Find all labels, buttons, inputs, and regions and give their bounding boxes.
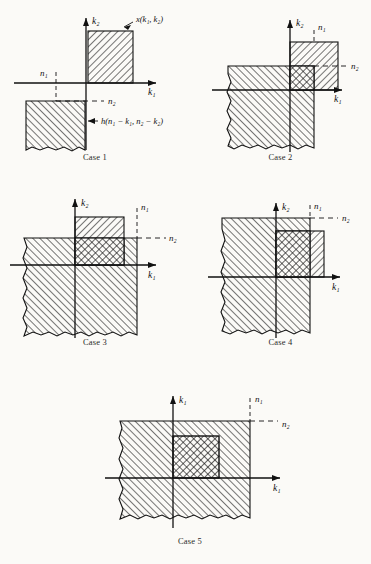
k2-axis-arrow-case-3	[72, 199, 78, 207]
panel-case-1: k₂ k₁ n₁ n₂ x(k₁, k₂) h(n₁ − k₁, n₂ − k₂…	[0, 0, 190, 175]
k1-axis-arrow-case-4	[332, 274, 340, 280]
overlap-region-case-4	[276, 231, 310, 277]
k1-axis-arrow-case-5	[272, 475, 280, 481]
n2-label-case-3: n₂	[169, 233, 177, 243]
overlap-region-case-2	[290, 66, 314, 90]
overlap-region-case-5	[173, 436, 219, 478]
n1-label-case-3: n₁	[141, 202, 149, 212]
k1-axis-label-case-1: k₁	[148, 87, 156, 97]
case-label-3: Case 3	[0, 337, 190, 347]
x-signal-label-case-1: x(k₁, k₂)	[135, 14, 163, 24]
convolution-cases-figure: k₂ k₁ n₁ n₂ x(k₁, k₂) h(n₁ − k₁, n₂ − k₂…	[0, 0, 371, 564]
h-region-case-1	[26, 101, 85, 151]
n2-label-case-2: n₂	[351, 61, 359, 71]
x-region-case-1	[88, 31, 133, 83]
n1-label-case-1: n₁	[40, 68, 48, 78]
k2-axis-label-case-3: k₂	[81, 198, 89, 208]
case-label-1: Case 1	[0, 152, 190, 162]
k2-axis-arrow-case-2	[287, 20, 293, 28]
h-label-arrowhead-case-1	[88, 118, 95, 124]
n1-label-case-2: n₁	[318, 22, 326, 32]
k2-axis-label-case-4: k₂	[282, 202, 290, 212]
n2-label-case-1: n₂	[108, 96, 116, 106]
n1-label-case-5: n₁	[255, 394, 263, 404]
case-label-4: Case 4	[190, 337, 371, 347]
panel-case-5: k₁ k₁ n₁ n₂ Case 5	[70, 378, 310, 564]
k2-axis-arrow-case-4	[273, 203, 279, 211]
k2-axis-label-case-2: k₂	[296, 18, 304, 28]
case-label-2: Case 2	[190, 152, 371, 162]
h-signal-label-case-1: h(n₁ − k₁, n₂ − k₂)	[101, 116, 163, 126]
k1-axis-arrow-case-3	[148, 262, 156, 268]
k1-axis-label-case-5: k₁	[273, 483, 281, 493]
overlap-region-case-3	[75, 238, 124, 265]
x-label-arrowhead-case-1	[124, 25, 131, 30]
n2-label-case-4: n₂	[342, 213, 350, 223]
k1-axis-label-case-3: k₁	[148, 270, 156, 280]
k2-axis-label-case-1: k₂	[92, 16, 100, 26]
panel-case-4: k₂ k₁ n₁ n₂ Case 4	[190, 185, 371, 360]
k2-axis-arrow-case-1	[83, 18, 89, 26]
case-label-5: Case 5	[70, 536, 310, 546]
k1-axis-label-case-2: k₁	[334, 94, 342, 104]
k1-axis-label-case-4: k₁	[332, 282, 340, 292]
k1-axis-arrow-case-1	[148, 80, 156, 86]
k2-axis-arrow-case-5	[170, 396, 176, 404]
n2-label-case-5: n₂	[282, 419, 290, 429]
panel-case-2: k₂ k₁ n₁ n₂ Case 2	[190, 0, 371, 175]
k2-axis-label-case-5: k₁	[179, 395, 187, 405]
n1-label-case-4: n₁	[314, 201, 322, 211]
panel-case-3: k₂ k₁ n₁ n₂ Case 3	[0, 185, 190, 360]
